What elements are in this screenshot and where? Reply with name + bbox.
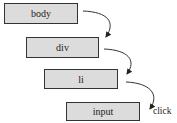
node-li: li: [44, 69, 118, 89]
node-input: input: [66, 102, 140, 121]
arrow-body-to-div: [83, 11, 110, 37]
event-label-click: click: [153, 106, 171, 116]
node-div: div: [26, 37, 99, 58]
node-body: body: [4, 3, 78, 24]
